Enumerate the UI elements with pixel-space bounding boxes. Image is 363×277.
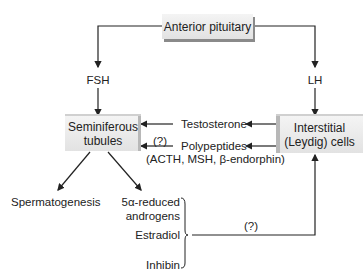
androgens-label-line1: 5α-reduced — [118, 196, 180, 209]
seminiferous-tubules-box: Seminiferous tubules — [65, 116, 141, 151]
spermatogenesis-label: Spermatogenesis — [11, 196, 101, 209]
interstitial-label-line2: (Leydig) cells — [284, 135, 355, 149]
uncertain-feedback-label: (?) — [244, 220, 258, 233]
polypeptides-detail-label: (ACTH, MSH, β-endorphin) — [146, 153, 285, 166]
fsh-label: FSH — [86, 74, 110, 87]
testosterone-label: Testosterone — [181, 118, 247, 131]
interstitial-label-line1: Interstitial — [284, 121, 355, 135]
inhibin-label: Inhibin — [118, 259, 180, 272]
polypeptides-label: Polypeptides — [181, 140, 247, 153]
seminiferous-label-line1: Seminiferous — [68, 120, 138, 134]
anterior-pituitary-box: Anterior pituitary — [162, 14, 253, 39]
androgens-label-line2: androgens — [118, 210, 180, 223]
interstitial-cells-box: Interstitial (Leydig) cells — [276, 116, 363, 153]
anterior-pituitary-label: Anterior pituitary — [164, 20, 251, 34]
lh-label: LH — [305, 74, 325, 87]
uncertain-polypeptides-label: (?) — [153, 135, 167, 148]
estradiol-label: Estradiol — [118, 229, 180, 242]
seminiferous-label-line2: tubules — [68, 134, 138, 148]
